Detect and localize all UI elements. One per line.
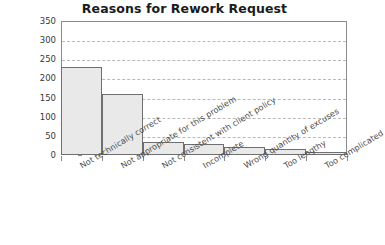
x-axis-tick-mark <box>61 156 62 161</box>
x-axis-category-label: Too complicated <box>323 128 385 171</box>
